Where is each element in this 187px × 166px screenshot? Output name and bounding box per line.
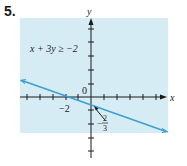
inequality-label: x + 3y ≥ −2: [29, 43, 78, 54]
inequality-graph: x + 3y ≥ −2 y x 0 −2 − 2 3: [0, 0, 187, 166]
x-axis-label: x: [169, 92, 175, 103]
x-intercept-label: −2: [59, 103, 70, 114]
y-intercept-sign: −: [97, 118, 102, 128]
y-axis-label: y: [86, 6, 92, 17]
origin-label: 0: [82, 85, 87, 96]
y-intercept-numerator: 2: [103, 114, 107, 123]
y-intercept-denominator: 3: [103, 124, 107, 133]
shaded-region: [20, 18, 168, 133]
